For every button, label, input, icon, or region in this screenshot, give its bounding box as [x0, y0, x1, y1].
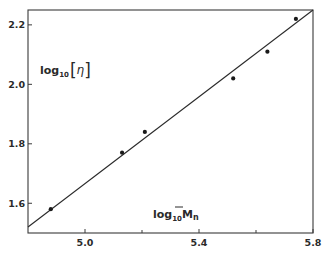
- y-tick-label: 2.2: [8, 19, 25, 30]
- x-tick-label: 5.4: [191, 237, 208, 248]
- x-axis-label: log10Mn: [153, 207, 199, 223]
- x-tick-label: 5.8: [305, 237, 322, 248]
- y-tick-label: 1.8: [8, 138, 25, 149]
- x-axis-ticks: 5.05.45.8: [77, 229, 322, 248]
- data-point: [265, 50, 269, 54]
- data-point: [294, 17, 298, 21]
- svg-text:log10Mn: log10Mn: [153, 208, 199, 223]
- data-point: [143, 130, 147, 134]
- data-point: [120, 151, 124, 155]
- y-axis-label: log10[η]: [40, 60, 91, 80]
- y-tick-label: 1.6: [8, 198, 25, 209]
- x-tick-label: 5.0: [77, 237, 94, 248]
- data-point: [49, 207, 53, 211]
- y-tick-label: 2.0: [8, 79, 25, 90]
- chart: 1.61.82.02.2 5.05.45.8 log10[η] log10Mn: [0, 0, 329, 253]
- plot-frame: [28, 10, 313, 233]
- data-point: [231, 76, 235, 80]
- fit-line: [28, 10, 313, 227]
